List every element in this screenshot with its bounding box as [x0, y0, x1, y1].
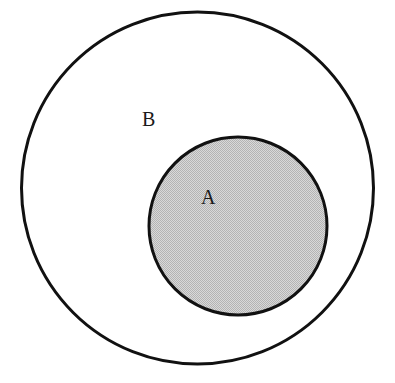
- inner-set-circle-a[interactable]: [149, 137, 327, 315]
- outer-set-label: B: [142, 109, 155, 129]
- euler-diagram-canvas: B A: [0, 0, 395, 383]
- euler-diagram-svg: [0, 0, 395, 383]
- inner-set-label: A: [201, 187, 215, 207]
